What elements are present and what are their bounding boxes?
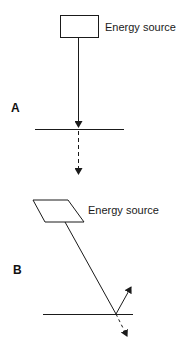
panel-b: Energy source B (13, 200, 159, 336)
transmitted-ray-b (116, 314, 127, 336)
energy-source-box-a (61, 16, 99, 38)
energy-source-label-a: Energy source (105, 21, 176, 33)
panel-label-a: A (11, 101, 20, 115)
energy-source-box-b (33, 200, 84, 222)
panel-label-b: B (13, 263, 22, 277)
energy-source-label-b: Energy source (88, 204, 159, 216)
reflected-ray-b (116, 287, 131, 314)
incident-ray-b (65, 222, 116, 314)
panel-a: Energy source A (11, 16, 176, 175)
diagram-canvas: Energy source A Energy source B (0, 0, 179, 356)
